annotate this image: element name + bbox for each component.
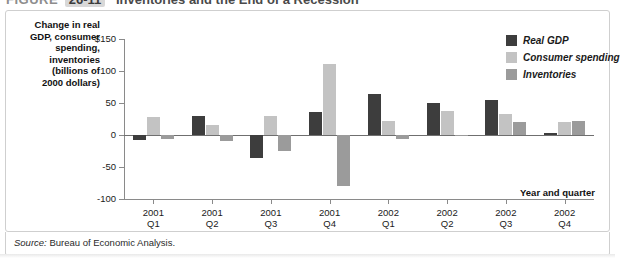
bar-group-2002-q4: [535, 39, 594, 199]
x-tick-7: [565, 199, 566, 204]
bar-group-2001-q1: [124, 39, 183, 199]
figure-caption: Inventories and the End of a Recession: [116, 0, 359, 7]
x-axis-label-2002-q2: 2002Q2: [417, 207, 477, 229]
x-axis-label-2001-q2: 2001Q2: [182, 207, 242, 229]
x-tick-1: [212, 199, 213, 204]
x-label-line-1: Q4: [535, 218, 595, 229]
bar-cons-2002-q4: [558, 122, 571, 135]
y-axis-caption: Change in real GDP, consumer spending, i…: [12, 19, 100, 88]
chart-panel: Change in real GDP, consumer spending, i…: [5, 10, 610, 232]
source-note: Source: Bureau of Economic Analysis.: [14, 237, 175, 248]
x-label-line-0: 2001: [123, 207, 183, 218]
bar-cons-2001-q4: [323, 64, 336, 135]
x-tick-6: [506, 199, 507, 204]
y-caption-line-5: 2000 dollars): [12, 77, 100, 89]
bar-gdp-2001-q3: [250, 135, 263, 158]
x-tick-4: [388, 199, 389, 204]
bar-gdp-2002-q2: [427, 103, 440, 135]
x-axis-label-2001-q1: 2001Q1: [123, 207, 183, 229]
y-caption-line-2: spending,: [12, 42, 100, 54]
y-caption-line-0: Change in real: [12, 19, 100, 31]
x-axis-line: [124, 199, 594, 200]
y-tick-label-100: 100: [74, 66, 116, 76]
x-label-line-0: 2001: [182, 207, 242, 218]
figure-label: FIGURE: [6, 0, 58, 7]
bar-group-2001-q3: [242, 39, 301, 199]
bar-inv-2001-q2: [220, 135, 233, 141]
bar-cons-2001-q1: [147, 117, 160, 135]
bar-inv-2002-q4: [572, 121, 585, 135]
y-tick-label--50: -50: [74, 162, 116, 172]
figure-number: 26-11: [65, 0, 106, 7]
x-label-line-0: 2001: [241, 207, 301, 218]
bar-inv-2002-q2: [455, 135, 468, 136]
x-axis-label-2002-q1: 2002Q1: [358, 207, 418, 229]
y-tick-label-150: $150: [74, 34, 116, 44]
bar-gdp-2002-q3: [485, 100, 498, 135]
bar-group-2001-q4: [300, 39, 359, 199]
y-caption-line-3: inventories: [12, 54, 100, 66]
x-label-line-1: Q2: [182, 218, 242, 229]
bar-gdp-2002-q4: [544, 133, 557, 135]
bar-gdp-2001-q2: [192, 116, 205, 135]
x-label-line-0: 2002: [535, 207, 595, 218]
y-tick-label-50: 50: [74, 98, 116, 108]
x-label-line-0: 2002: [358, 207, 418, 218]
x-label-line-1: Q2: [417, 218, 477, 229]
bar-group-2002-q2: [418, 39, 477, 199]
bar-cons-2002-q1: [382, 121, 395, 135]
x-axis-label-2002-q4: 2002Q4: [535, 207, 595, 229]
x-label-line-1: Q4: [300, 218, 360, 229]
bar-group-2002-q3: [477, 39, 536, 199]
bar-gdp-2001-q1: [133, 135, 146, 140]
x-label-line-0: 2002: [417, 207, 477, 218]
source-value: Bureau of Economic Analysis.: [49, 237, 175, 248]
figure-title-bar: FIGURE 26-11 Inventories and the End of …: [0, 0, 615, 10]
x-tick-0: [153, 199, 154, 204]
x-tick-2: [271, 199, 272, 204]
x-label-line-0: 2001: [300, 207, 360, 218]
x-axis-label-2001-q4: 2001Q4: [300, 207, 360, 229]
bar-cons-2002-q3: [499, 114, 512, 135]
y-tick-label--100: -100: [74, 194, 116, 204]
bottom-edge-shadow: [0, 254, 615, 258]
x-label-line-1: Q3: [241, 218, 301, 229]
x-label-line-0: 2002: [476, 207, 536, 218]
x-tick-3: [330, 199, 331, 204]
bar-group-2001-q2: [183, 39, 242, 199]
plot-area: $150100500-50-100: [124, 39, 594, 199]
bar-inv-2001-q3: [278, 135, 291, 151]
source-label: Source:: [14, 237, 47, 248]
source-panel: Source: Bureau of Economic Analysis.: [5, 232, 610, 256]
x-tick-5: [447, 199, 448, 204]
bar-group-2002-q1: [359, 39, 418, 199]
bar-gdp-2001-q4: [309, 112, 322, 135]
bar-gdp-2002-q1: [368, 94, 381, 135]
y-tick-label-0: 0: [74, 130, 116, 140]
bar-inv-2002-q3: [513, 122, 526, 135]
bar-inv-2001-q1: [161, 135, 174, 139]
bar-cons-2001-q2: [206, 125, 219, 135]
x-label-line-1: Q1: [123, 218, 183, 229]
x-axis-label-2002-q3: 2002Q3: [476, 207, 536, 229]
bar-inv-2001-q4: [337, 135, 350, 186]
bar-cons-2001-q3: [264, 116, 277, 135]
x-label-line-1: Q3: [476, 218, 536, 229]
bar-inv-2002-q1: [396, 135, 409, 139]
x-axis-label-2001-q3: 2001Q3: [241, 207, 301, 229]
x-axis-title: Year and quarter: [520, 187, 595, 198]
bar-cons-2002-q2: [441, 111, 454, 135]
x-label-line-1: Q1: [358, 218, 418, 229]
